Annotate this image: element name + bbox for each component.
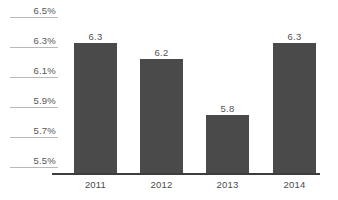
y-axis-tick: 6.5% <box>0 4 58 18</box>
bar <box>273 43 316 173</box>
y-axis-tick: 6.1% <box>0 64 58 78</box>
x-axis-category-label: 2014 <box>273 179 316 190</box>
bar-value-label: 6.2 <box>140 47 183 58</box>
y-axis-tick: 6.3% <box>0 34 58 48</box>
y-axis-tick-rule <box>10 107 58 108</box>
y-axis-tick: 5.7% <box>0 124 58 138</box>
x-axis-category-label: 2013 <box>206 179 249 190</box>
y-axis-tick-rule <box>10 137 58 138</box>
y-axis-tick-rule <box>10 17 58 18</box>
bar <box>206 115 249 173</box>
bar-value-label: 6.3 <box>74 31 117 42</box>
y-axis-tick: 5.9% <box>0 94 58 108</box>
bar <box>140 59 183 173</box>
bar-value-label: 5.8 <box>206 103 249 114</box>
bar-chart: 6.5% 6.3% 6.1% 5.9% 5.7% 5.5% 6.3 2011 6… <box>0 0 338 200</box>
y-axis-tick: 5.5% <box>0 154 58 168</box>
x-axis-category-label: 2012 <box>140 179 183 190</box>
y-axis-tick-rule <box>10 47 58 48</box>
y-axis-tick-rule <box>10 77 58 78</box>
y-axis-tick-rule <box>10 167 58 168</box>
bar <box>74 43 117 173</box>
bar-value-label: 6.3 <box>273 31 316 42</box>
plot-area: 6.3 2011 6.2 2012 5.8 2013 6.3 2014 <box>52 0 338 200</box>
x-axis-category-label: 2011 <box>74 179 117 190</box>
x-axis-line <box>52 173 320 175</box>
